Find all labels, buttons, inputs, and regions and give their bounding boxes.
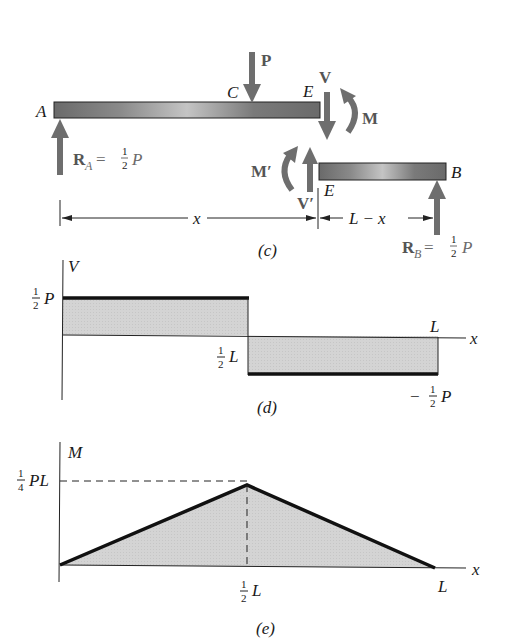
label-P: P	[261, 51, 271, 70]
label-E-lower: E	[323, 181, 335, 200]
moment-axis-label-M: M	[67, 443, 83, 462]
svg-text:4: 4	[18, 481, 24, 493]
moment-m-axis	[59, 442, 60, 582]
svg-text:L: L	[251, 581, 261, 600]
svg-text:=: =	[96, 150, 106, 169]
shear-axis-label-x: x	[469, 329, 478, 348]
svg-text:2: 2	[241, 592, 247, 604]
svg-text:2: 2	[218, 358, 224, 370]
shear-tick-half-L: 1 2 L	[217, 344, 238, 370]
beam-diagram-figure: A C E B E P V M M′ V′ R A = 1 2 P R B = …	[0, 0, 508, 644]
lower-beam-EB	[319, 163, 446, 180]
caption-d: (d)	[257, 398, 277, 417]
moment-tick-half-L: 1 2 L	[240, 578, 261, 604]
svg-text:1: 1	[18, 467, 24, 479]
shear-tick-L: L	[429, 317, 439, 336]
svg-text:P: P	[461, 238, 472, 257]
shear-axis-label-V: V	[68, 257, 81, 276]
label-C: C	[227, 83, 239, 102]
svg-text:1: 1	[218, 344, 224, 356]
shear-tick-neg-half-P: − 1 2 P	[410, 383, 451, 409]
svg-text:2: 2	[451, 247, 457, 259]
svg-text:B: B	[414, 247, 422, 261]
svg-text:2: 2	[122, 159, 128, 171]
label-E-upper: E	[302, 82, 314, 101]
dimension-L-minus-x-label: L − x	[348, 209, 386, 228]
label-A: A	[35, 102, 47, 121]
reaction-A-arrow-icon	[51, 119, 69, 175]
moment-axis-label-x: x	[471, 560, 480, 579]
reaction-B-arrow-icon	[428, 180, 446, 235]
svg-text:1: 1	[241, 578, 247, 590]
shear-v-axis	[62, 260, 63, 400]
svg-text:2: 2	[430, 397, 436, 409]
free-body-diagram: A C E B E P V M M′ V′ R A = 1 2 P R B = …	[35, 51, 472, 261]
label-V: V	[319, 68, 332, 87]
svg-text:=: =	[424, 238, 434, 257]
shear-diagram: V x 1 2 P 1 2 L L − 1 2 P (d)	[32, 257, 478, 417]
label-B: B	[451, 163, 462, 182]
svg-text:L: L	[228, 347, 238, 366]
moment-tick-L: L	[437, 577, 447, 596]
load-P-arrow-icon	[243, 52, 261, 103]
svg-text:PL: PL	[28, 471, 49, 490]
reaction-A-label: R A = 1 2 P	[73, 145, 142, 173]
dimension-x-label: x	[192, 209, 201, 228]
moment-tick-quarter-PL: 1 4 PL	[17, 467, 49, 493]
svg-text:P: P	[43, 289, 54, 308]
caption-c: (c)	[258, 241, 277, 260]
moment-M-arrow-icon	[340, 88, 356, 132]
svg-text:1: 1	[122, 145, 128, 157]
svg-text:1: 1	[33, 285, 39, 297]
shear-V-prime-arrow-icon	[302, 147, 318, 192]
moment-M-prime-arrow-icon	[283, 146, 298, 190]
svg-text:P: P	[131, 150, 142, 169]
svg-text:P: P	[440, 387, 451, 406]
svg-text:A: A	[84, 159, 93, 173]
moment-diagram: M x 1 4 PL 1 2 L L (e)	[17, 442, 480, 638]
shear-tick-half-P: 1 2 P	[32, 285, 54, 311]
shear-negative-area	[248, 336, 438, 374]
svg-text:1: 1	[451, 233, 457, 245]
svg-text:1: 1	[430, 383, 436, 395]
label-M: M	[362, 109, 378, 128]
caption-e: (e)	[256, 619, 275, 638]
svg-text:−: −	[410, 387, 420, 406]
label-V-prime: V′	[297, 194, 314, 213]
shear-positive-area	[63, 298, 248, 335]
label-M-prime: M′	[251, 162, 272, 181]
svg-text:2: 2	[33, 299, 39, 311]
shear-V-arrow-icon	[318, 92, 336, 140]
reaction-B-label: R B = 1 2 P	[402, 233, 472, 261]
upper-beam-AE	[54, 102, 320, 118]
